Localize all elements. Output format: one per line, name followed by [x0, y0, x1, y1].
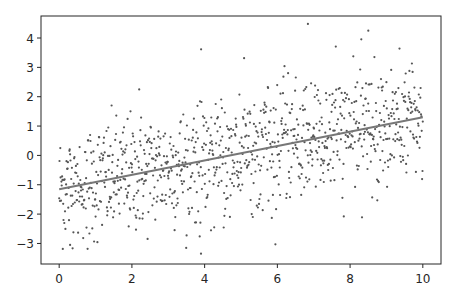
data-point — [165, 203, 167, 205]
data-point — [144, 134, 146, 136]
data-point — [302, 124, 304, 126]
data-point — [100, 201, 102, 203]
data-point — [194, 180, 196, 182]
data-point — [297, 157, 299, 159]
y-tick-label: −3 — [16, 237, 34, 251]
data-point — [70, 178, 72, 180]
data-point — [323, 160, 325, 162]
data-point — [201, 146, 203, 148]
data-point — [92, 150, 94, 152]
data-point — [64, 210, 66, 212]
data-point — [375, 110, 377, 112]
data-point — [153, 138, 155, 140]
data-point — [238, 184, 240, 186]
x-tick-label: 8 — [346, 272, 354, 286]
data-point — [381, 150, 383, 152]
data-point — [307, 162, 309, 164]
data-point — [218, 181, 220, 183]
data-point — [401, 144, 403, 146]
data-point — [167, 175, 169, 177]
data-point — [233, 185, 235, 187]
data-point — [325, 99, 327, 101]
data-point — [409, 130, 411, 132]
data-point — [299, 108, 301, 110]
data-point — [211, 150, 213, 152]
x-tick-label: 10 — [415, 272, 430, 286]
data-point — [238, 171, 240, 173]
data-point — [88, 232, 90, 234]
data-point — [156, 196, 158, 198]
data-point — [412, 71, 414, 73]
data-point — [178, 160, 180, 162]
data-point — [259, 193, 261, 195]
data-point — [329, 94, 331, 96]
data-point — [193, 147, 195, 149]
data-point — [169, 142, 171, 144]
data-point — [236, 161, 238, 163]
data-point — [362, 104, 364, 106]
data-point — [184, 165, 186, 167]
data-point — [325, 140, 327, 142]
data-point — [173, 207, 175, 209]
data-point — [129, 209, 131, 211]
data-point — [102, 157, 104, 159]
data-point — [198, 172, 200, 174]
data-point — [71, 167, 73, 169]
data-point — [371, 134, 373, 136]
data-point — [81, 203, 83, 205]
data-point — [331, 93, 333, 95]
data-point — [251, 158, 253, 160]
data-point — [167, 177, 169, 179]
x-axis: 0246810 — [55, 264, 430, 286]
data-point — [404, 95, 406, 97]
data-point — [379, 159, 381, 161]
data-point — [175, 154, 177, 156]
data-point — [266, 169, 268, 171]
data-point — [391, 154, 393, 156]
data-point — [164, 133, 166, 135]
data-point — [289, 112, 291, 114]
data-point — [378, 131, 380, 133]
data-point — [230, 128, 232, 130]
data-point — [400, 137, 402, 139]
data-point — [370, 145, 372, 147]
data-point — [314, 96, 316, 98]
data-point — [121, 154, 123, 156]
data-point — [383, 105, 385, 107]
data-point — [282, 137, 284, 139]
data-point — [211, 143, 213, 145]
data-point — [123, 126, 125, 128]
data-point — [188, 139, 190, 141]
data-point — [282, 76, 284, 78]
data-point — [319, 103, 321, 105]
data-point — [379, 112, 381, 114]
data-point — [192, 129, 194, 131]
data-point — [264, 104, 266, 106]
data-point — [243, 147, 245, 149]
data-point — [63, 222, 65, 224]
data-point — [256, 155, 258, 157]
data-point — [278, 183, 280, 185]
data-point — [323, 181, 325, 183]
data-point — [108, 155, 110, 157]
data-point — [83, 199, 85, 201]
data-point — [187, 188, 189, 190]
data-point — [419, 97, 421, 99]
data-point — [114, 139, 116, 141]
data-point — [133, 141, 135, 143]
data-point — [397, 87, 399, 89]
data-point — [415, 171, 417, 173]
data-point — [143, 149, 145, 151]
data-point — [137, 209, 139, 211]
data-point — [307, 129, 309, 131]
data-point — [140, 144, 142, 146]
y-tick-label: 1 — [26, 120, 34, 134]
data-point — [158, 130, 160, 132]
data-point — [257, 206, 259, 208]
data-point — [267, 87, 269, 89]
data-point — [223, 192, 225, 194]
data-point — [416, 142, 418, 144]
data-point — [89, 140, 91, 142]
data-point — [228, 147, 230, 149]
data-point — [96, 241, 98, 243]
